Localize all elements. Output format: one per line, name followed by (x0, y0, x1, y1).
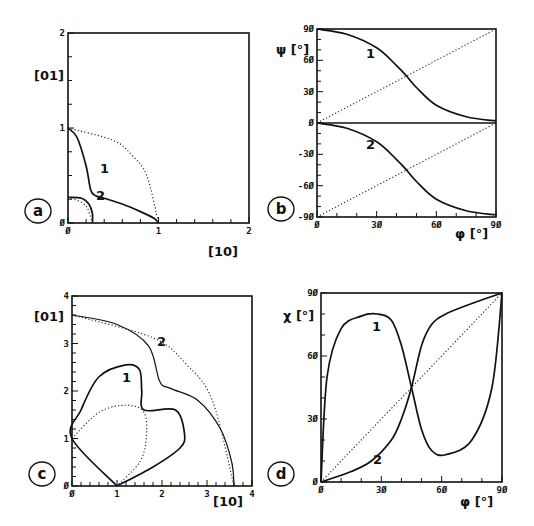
y-axis-label: χ [°] (283, 308, 314, 323)
x-tick-label: Ø (313, 220, 320, 230)
series-2 (68, 197, 93, 223)
y-tick-label: 2 (64, 386, 69, 396)
panel-label: b (276, 200, 287, 218)
panel-b: Ø3Ø6Ø9Ø9Ø6Ø3ØØ-3Ø-6Ø-9Øφ [°]ψ [°]12b (268, 24, 502, 241)
curve-label: 2 (366, 137, 375, 152)
y-tick-label: -6Ø (298, 181, 315, 191)
x-tick-label: Ø (317, 485, 324, 495)
y-tick-label: 1 (64, 434, 69, 444)
curve-label: 2 (96, 188, 105, 203)
y-tick-label: Ø (63, 481, 70, 491)
series-2-reference-circle-r-3-6- (72, 315, 234, 486)
y-tick-label: 3Ø (307, 414, 318, 424)
x-tick-label: 4 (249, 489, 255, 499)
y-tick-label: 9Ø (307, 288, 318, 298)
series-2-reference-quarter-circle-r-0-27- (68, 197, 92, 223)
x-tick-label: 3Ø (371, 220, 382, 230)
y-axis-label: [01] (34, 309, 64, 324)
panel-d: Ø3Ø6Ø9ØØ3Ø6Ø9Øφ [°]χ [°]12d (268, 288, 508, 509)
x-tick-label: 2 (246, 226, 251, 236)
x-tick-label: 6Ø (431, 220, 442, 230)
x-tick-label: 3 (204, 489, 209, 499)
panel-label: a (33, 202, 43, 220)
series-2 (317, 123, 496, 215)
y-tick-label: -3Ø (298, 149, 315, 159)
x-tick-label: 9Ø (491, 220, 502, 230)
x-tick-label: 2 (159, 489, 164, 499)
series-1 (317, 29, 496, 121)
x-axis-label: [10] (213, 494, 243, 509)
y-tick-label: Ø (59, 218, 66, 228)
curve-label: 1 (366, 46, 375, 61)
y-axis-label: [01] (34, 68, 64, 83)
figure: Ø12Ø12[10][01]12aØ3Ø6Ø9Ø9Ø6Ø3ØØ-3Ø-6Ø-9Ø… (0, 0, 534, 526)
panel-c: Ø1234Ø1234[10][01]12c (29, 291, 255, 509)
y-tick-label: Ø (312, 477, 319, 487)
plot-frame (72, 296, 252, 486)
y-tick-label: 3 (64, 339, 69, 349)
y-tick-label: 1 (60, 123, 65, 133)
curve-label: 1 (122, 370, 131, 385)
x-tick-label: 9Ø (497, 485, 508, 495)
x-axis-label: φ [°] (455, 226, 488, 241)
x-axis-label: φ [°] (460, 494, 493, 509)
y-tick-label: Ø (308, 118, 315, 128)
curve-label: 1 (372, 319, 381, 334)
x-tick-label: 3Ø (376, 485, 387, 495)
y-tick-label: 9Ø (303, 24, 314, 34)
series-1 (68, 128, 159, 223)
panel-a: Ø12Ø12[10][01]12a (25, 28, 252, 259)
y-tick-label: 6Ø (307, 351, 318, 361)
x-tick-label: Ø (64, 226, 71, 236)
x-tick-label: 1 (156, 226, 161, 236)
series-1-reference (72, 405, 147, 486)
x-tick-label: 6Ø (436, 485, 447, 495)
x-tick-label: 1 (114, 489, 119, 499)
y-tick-label: 2 (60, 28, 65, 38)
series-2 (72, 315, 234, 486)
y-tick-label: 4 (64, 291, 70, 301)
x-axis-label: [10] (208, 244, 238, 259)
curve-label: 2 (373, 452, 382, 467)
x-tick-label: Ø (68, 489, 75, 499)
y-axis-label: ψ [°] (276, 42, 309, 57)
panel-label: d (276, 465, 287, 483)
curve-label: 1 (100, 161, 109, 176)
y-tick-label: -9Ø (298, 212, 315, 222)
curve-label: 2 (157, 334, 166, 349)
series-1-reference-unit-circle- (68, 128, 159, 223)
y-tick-label: 3Ø (303, 87, 314, 97)
panel-label: c (38, 465, 47, 483)
